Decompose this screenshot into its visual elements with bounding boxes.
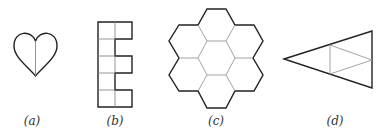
figure-a-heart: [14, 33, 57, 76]
figures-canvas: [0, 0, 376, 137]
label-a: (a): [24, 114, 41, 128]
label-b: (b): [106, 114, 123, 128]
label-d: (d): [326, 114, 343, 128]
figure-d-triangle: [284, 31, 372, 88]
label-c: (c): [208, 114, 224, 128]
figure-c-hexagons: [169, 9, 263, 108]
figure-b-e-shape: [98, 22, 132, 107]
